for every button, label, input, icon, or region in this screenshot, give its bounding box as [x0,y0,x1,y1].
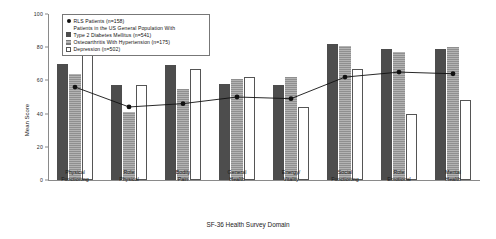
y-tick-mark-60 [45,80,48,81]
y-tick-mark-40 [45,113,48,114]
bar-diabetes [435,49,447,180]
bar-osteoarthritis [393,52,405,180]
chart-legend: RLS Patients (n=158)Patients in the US G… [62,14,210,56]
legend-row: Osteoarthritis With Hypertension (n=175) [66,39,206,46]
legend-label: RLS Patients (n=158) [74,18,125,24]
bar-diabetes [327,44,339,180]
legend-label: Osteoarthritis With Hypertension (n=175) [74,39,170,45]
bar-osteoarthritis [285,77,297,180]
legend-marker-icon [67,19,71,23]
bar-group [435,14,471,180]
bar-diabetes [165,65,177,180]
legend-row: Depression (n=502) [66,46,206,53]
legend-swatch-depression [66,47,71,52]
category-label: Energy/Vitality [264,169,318,182]
legend-label: Type 2 Diabetes Mellitus (n=541) [74,32,152,38]
legend-label: Depression (n=502) [74,46,121,52]
y-axis-title: Mean Score [24,103,30,135]
legend-label: Patients in the US General Population Wi… [74,25,176,31]
category-label: GeneralHealth [210,169,264,182]
legend-swatch-diabetes [66,32,71,37]
bar-diabetes [111,85,123,180]
legend-row: RLS Patients (n=158) [66,17,206,24]
legend-swatch-osteo [66,40,71,45]
bar-depression [190,69,202,180]
bar-group [273,14,309,180]
bar-diabetes [273,85,285,180]
bar-depression [82,51,94,180]
sf36-mean-score-chart: Mean Score 020406080100 PhysicalFunction… [0,0,496,239]
bar-osteoarthritis [177,89,189,180]
bar-osteoarthritis [447,47,459,180]
bar-group [327,14,363,180]
y-tick-mark-20 [45,146,48,147]
bar-depression [352,69,364,180]
bar-osteoarthritis [339,46,351,180]
bar-depression [244,77,256,180]
bar-depression [136,85,148,180]
bar-diabetes [381,49,393,180]
category-label: PhysicalFunctioning [48,169,102,182]
y-tick-mark-100 [45,14,48,15]
bar-diabetes [219,84,231,180]
bar-osteoarthritis [69,74,81,180]
legend-row: Patients in the US General Population Wi… [66,24,206,31]
y-axis-line [48,14,49,180]
bar-osteoarthritis [231,79,243,180]
bar-group [381,14,417,180]
category-label: BodilyPain [156,169,210,182]
bar-group [219,14,255,180]
bar-diabetes [57,64,69,180]
category-label: SocialFunctioning [318,169,372,182]
legend-row: Type 2 Diabetes Mellitus (n=541) [66,31,206,38]
category-label: RolePhysical [102,169,156,182]
x-axis-title: SF-36 Health Survey Domain [0,221,496,228]
category-label: MentalHealth [426,169,480,182]
category-label: RoleEmotional [372,169,426,182]
y-tick-mark-80 [45,47,48,48]
